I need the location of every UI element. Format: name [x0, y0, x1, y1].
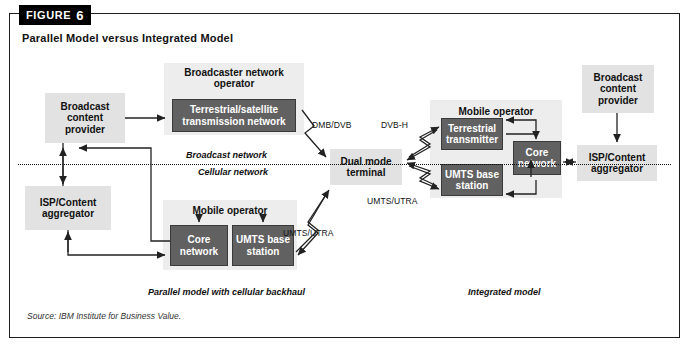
- caption-parallel-model: Parallel model with cellular backhaul: [148, 287, 305, 297]
- mobile-operator-right-label: Mobile operator: [432, 106, 560, 117]
- node-isp-content-aggregator-right[interactable]: ISP/Contentaggregator: [577, 145, 657, 181]
- divider-label-cellular-network: Cellular network: [198, 167, 268, 177]
- node-core-network-right[interactable]: Corenetwork: [513, 141, 561, 175]
- figure-tab-word: FIGURE: [26, 9, 71, 21]
- link-label-umts-utra-right: UMTS/UTRA: [367, 196, 417, 206]
- node-broadcast-content-provider-left[interactable]: Broadcastcontentprovider: [45, 93, 125, 143]
- node-terrestrial-transmitter[interactable]: Terrestrialtransmitter: [441, 118, 503, 150]
- figure-title: Parallel Model versus Integrated Model: [22, 32, 233, 44]
- figure-tab-number: 6: [76, 8, 84, 23]
- node-dual-mode-terminal[interactable]: Dual modeterminal: [330, 149, 402, 185]
- node-broadcast-content-provider-right[interactable]: Broadcastcontentprovider: [582, 65, 654, 113]
- link-label-dvb-h: DVB-H: [381, 120, 408, 130]
- node-terrestrial-satellite-transmission-network[interactable]: Terrestrial/satellitetransmission networ…: [172, 99, 296, 132]
- figure-tab: FIGURE 6: [19, 5, 91, 25]
- mobile-operator-left-label: Mobile operator: [165, 205, 295, 216]
- node-core-network-left[interactable]: Corenetwork: [170, 225, 228, 266]
- divider-label-broadcast-network: Broadcast network: [186, 150, 267, 160]
- node-isp-content-aggregator-left[interactable]: ISP/Contentaggregator: [25, 186, 111, 230]
- node-umts-base-station-right[interactable]: UMTS basestation: [441, 164, 503, 196]
- link-label-umts-utra-left: UMTS/UTRA: [283, 228, 333, 238]
- source-note: Source: IBM Institute for Business Value…: [27, 311, 181, 321]
- link-label-dmb-dvb: DMB/DVB: [312, 120, 351, 130]
- broadcast-cellular-divider: [18, 164, 671, 165]
- caption-integrated-model: Integrated model: [468, 287, 541, 297]
- figure-page: FIGURE 6 Parallel Model versus Integrate…: [0, 0, 690, 353]
- broadcaster-network-operator-label: Broadcaster networkoperator: [168, 67, 300, 89]
